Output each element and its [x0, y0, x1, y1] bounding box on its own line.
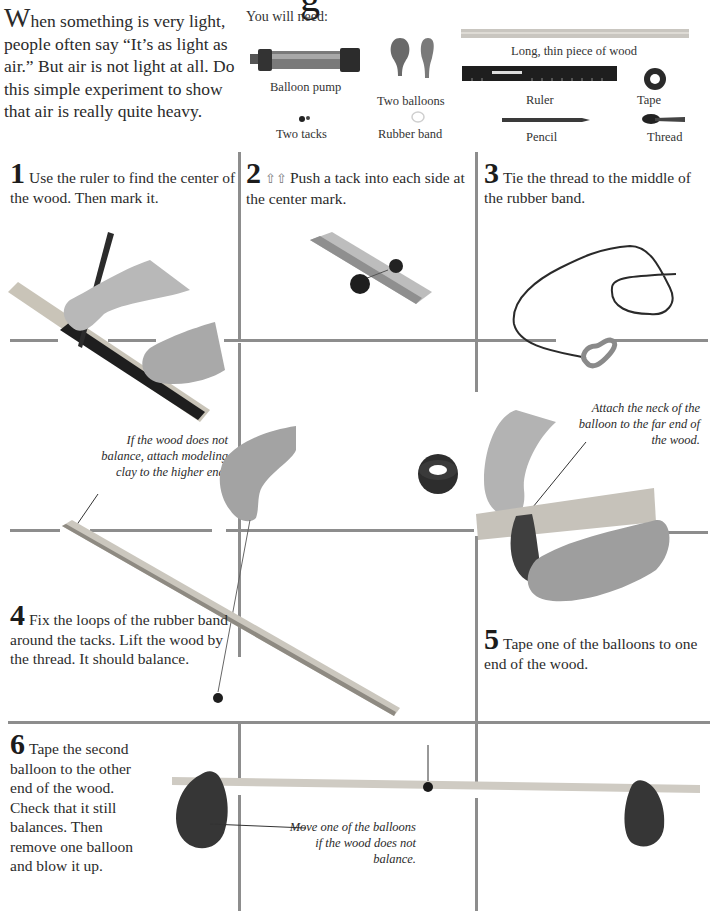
wood-with-tacks-illustration	[310, 232, 440, 312]
step-6: 6Tape the second balloon to the other en…	[10, 733, 150, 876]
material-label-thread: Thread	[647, 130, 682, 145]
note-move-balloon: Move one of the balloons if the wood doe…	[286, 819, 416, 867]
material-label-balloon-pump: Balloon pump	[270, 80, 341, 95]
tape-roll-illustration	[416, 450, 460, 494]
intro-dropcap: W	[4, 2, 30, 33]
step-1: 1Use the ruler to find the center of the…	[10, 162, 236, 207]
material-label-tacks: Two tacks	[276, 127, 327, 142]
material-label-ruler: Ruler	[526, 93, 554, 108]
balloon-pump-icon	[250, 44, 362, 76]
taping-balloon-illustration	[476, 410, 714, 610]
ruler-and-hands-illustration	[0, 230, 240, 430]
intro-paragraph: When something is very light, people oft…	[4, 8, 236, 123]
grid-line-horizontal-3	[8, 721, 710, 724]
step-4-text: Fix the loops of the rubber band around …	[10, 611, 228, 667]
balloons-icon	[388, 36, 448, 86]
materials-heading: You will need:	[246, 9, 328, 25]
balloon-balance-illustration	[170, 745, 710, 855]
rubber-band-icon	[410, 110, 426, 124]
material-label-tape: Tape	[637, 93, 661, 108]
wood-stick-icon	[461, 28, 691, 40]
step-1-text: Use the ruler to find the center of the …	[10, 169, 235, 206]
pencil-icon	[502, 117, 592, 123]
adult-help-icon: ⇧⇧	[265, 171, 287, 186]
thread-icon	[641, 112, 689, 126]
step-3: 3Tie the thread to the middle of the rub…	[484, 162, 710, 207]
ruler-icon	[462, 66, 618, 82]
grid-line-horizontal-2a	[10, 529, 60, 532]
material-label-rubber-band: Rubber band	[378, 127, 442, 142]
step-5-number: 5	[484, 622, 499, 655]
step-2: 2⇧⇧Push a tack into each side at the cen…	[246, 162, 474, 208]
intro-text: hen something is very light, people ofte…	[4, 11, 234, 121]
step-6-text: Tape the second balloon to the other end…	[10, 740, 133, 874]
step-5-text: Tape one of the balloons to one end of t…	[484, 635, 697, 672]
material-label-pencil: Pencil	[526, 130, 557, 145]
step-2-number: 2	[246, 156, 261, 189]
step-4: 4Fix the loops of the rubber band around…	[10, 604, 236, 669]
step-1-number: 1	[10, 156, 25, 189]
grid-line-vertical-2	[475, 152, 478, 392]
tape-icon	[642, 66, 668, 92]
material-label-wood: Long, thin piece of wood	[511, 44, 637, 59]
step-3-number: 3	[484, 156, 499, 189]
step-5: 5Tape one of the balloons to one end of …	[484, 628, 710, 673]
tacks-icon	[298, 115, 312, 123]
step-3-text: Tie the thread to the middle of the rubb…	[484, 169, 691, 206]
thread-and-band-illustration	[500, 228, 700, 358]
balanced-wood-illustration	[60, 420, 420, 720]
step-4-number: 4	[10, 598, 25, 631]
step-6-number: 6	[10, 727, 25, 760]
material-label-balloons: Two balloons	[377, 94, 445, 109]
